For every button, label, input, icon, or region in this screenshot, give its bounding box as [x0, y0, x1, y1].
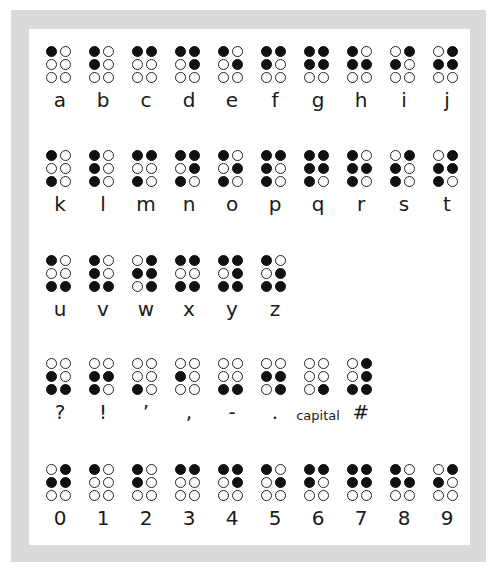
raised-dot-icon: [46, 384, 57, 395]
flat-dot-icon: [218, 371, 229, 382]
flat-dot-icon: [361, 150, 372, 161]
raised-dot-icon: [89, 384, 100, 395]
flat-dot-icon: [46, 358, 57, 369]
flat-dot-icon: [146, 163, 157, 174]
flat-dot-icon: [46, 464, 57, 475]
raised-dot-icon: [433, 163, 444, 174]
flat-dot-icon: [361, 490, 372, 501]
flat-dot-icon: [60, 46, 71, 57]
raised-dot-icon: [132, 268, 143, 279]
raised-dot-icon: [46, 150, 57, 161]
raised-dot-icon: [189, 46, 200, 57]
raised-dot-icon: [261, 59, 272, 70]
flat-dot-icon: [175, 490, 186, 501]
braille-dots: [304, 358, 332, 398]
braille-dots: [46, 255, 74, 295]
raised-dot-icon: [447, 163, 458, 174]
flat-dot-icon: [232, 46, 243, 57]
raised-dot-icon: [132, 477, 143, 488]
flat-dot-icon: [89, 490, 100, 501]
braille-dots: [89, 358, 117, 398]
flat-dot-icon: [146, 464, 157, 475]
raised-dot-icon: [232, 255, 243, 266]
flat-dot-icon: [304, 384, 315, 395]
flat-dot-icon: [404, 176, 415, 187]
raised-dot-icon: [175, 150, 186, 161]
flat-dot-icon: [175, 59, 186, 70]
flat-dot-icon: [146, 384, 157, 395]
raised-dot-icon: [89, 150, 100, 161]
flat-dot-icon: [103, 255, 114, 266]
raised-dot-icon: [361, 163, 372, 174]
raised-dot-icon: [261, 255, 272, 266]
flat-dot-icon: [103, 163, 114, 174]
raised-dot-icon: [132, 46, 143, 57]
raised-dot-icon: [146, 46, 157, 57]
braille-dots: [261, 464, 289, 504]
braille-dots: [218, 46, 246, 86]
braille-dots: [304, 46, 332, 86]
flat-dot-icon: [60, 72, 71, 83]
braille-dots: [46, 358, 74, 398]
flat-dot-icon: [275, 255, 286, 266]
flat-dot-icon: [132, 59, 143, 70]
flat-dot-icon: [103, 150, 114, 161]
flat-dot-icon: [46, 163, 57, 174]
flat-dot-icon: [361, 176, 372, 187]
raised-dot-icon: [89, 268, 100, 279]
raised-dot-icon: [232, 59, 243, 70]
braille-label: t: [417, 192, 477, 216]
flat-dot-icon: [60, 163, 71, 174]
flat-dot-icon: [433, 46, 444, 57]
flat-dot-icon: [103, 358, 114, 369]
flat-dot-icon: [103, 268, 114, 279]
raised-dot-icon: [347, 464, 358, 475]
raised-dot-icon: [232, 464, 243, 475]
braille-dots: [218, 150, 246, 190]
flat-dot-icon: [132, 281, 143, 292]
raised-dot-icon: [261, 371, 272, 382]
flat-dot-icon: [103, 490, 114, 501]
flat-dot-icon: [175, 358, 186, 369]
flat-dot-icon: [347, 371, 358, 382]
flat-dot-icon: [175, 72, 186, 83]
flat-dot-icon: [347, 358, 358, 369]
flat-dot-icon: [218, 163, 229, 174]
flat-dot-icon: [318, 490, 329, 501]
flat-dot-icon: [189, 358, 200, 369]
flat-dot-icon: [146, 59, 157, 70]
raised-dot-icon: [89, 59, 100, 70]
flat-dot-icon: [60, 268, 71, 279]
raised-dot-icon: [218, 281, 229, 292]
raised-dot-icon: [60, 384, 71, 395]
flat-dot-icon: [175, 268, 186, 279]
braille-dots: [218, 358, 246, 398]
braille-dots: [347, 358, 375, 398]
braille-dots: [390, 464, 418, 504]
raised-dot-icon: [218, 150, 229, 161]
braille-dots: [132, 358, 160, 398]
flat-dot-icon: [103, 72, 114, 83]
raised-dot-icon: [103, 371, 114, 382]
braille-dots: [89, 46, 117, 86]
flat-dot-icon: [275, 72, 286, 83]
flat-dot-icon: [132, 72, 143, 83]
raised-dot-icon: [175, 464, 186, 475]
flat-dot-icon: [218, 358, 229, 369]
flat-dot-icon: [232, 176, 243, 187]
flat-dot-icon: [146, 490, 157, 501]
raised-dot-icon: [347, 163, 358, 174]
raised-dot-icon: [103, 281, 114, 292]
raised-dot-icon: [347, 384, 358, 395]
raised-dot-icon: [261, 281, 272, 292]
flat-dot-icon: [390, 46, 401, 57]
flat-dot-icon: [261, 72, 272, 83]
flat-dot-icon: [232, 371, 243, 382]
raised-dot-icon: [46, 176, 57, 187]
raised-dot-icon: [132, 384, 143, 395]
flat-dot-icon: [361, 72, 372, 83]
raised-dot-icon: [275, 46, 286, 57]
raised-dot-icon: [146, 268, 157, 279]
flat-dot-icon: [146, 371, 157, 382]
raised-dot-icon: [361, 371, 372, 382]
